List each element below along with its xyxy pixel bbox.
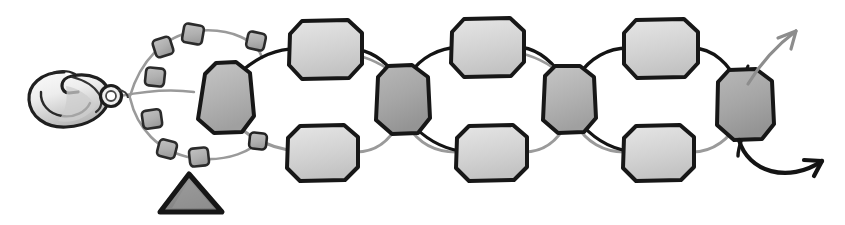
octagon-bead xyxy=(623,125,694,181)
loop-bead xyxy=(152,36,175,59)
upper-bead-row xyxy=(289,18,698,79)
octagon-bead xyxy=(451,18,524,77)
illustration-canvas: Beaded bracelet assembly illustration xyxy=(0,0,845,225)
octagon-bead xyxy=(289,20,362,79)
loop-bead xyxy=(141,109,162,129)
connector-bead xyxy=(543,66,596,133)
lobster-clasp xyxy=(29,71,109,127)
octagon-bead xyxy=(456,125,527,181)
loop-bead xyxy=(145,67,166,87)
connector-bead xyxy=(376,65,430,134)
connector-bead xyxy=(717,69,774,140)
loop-bead xyxy=(182,23,205,45)
octagon-bead xyxy=(624,19,698,78)
beaded-bracelet-illustration xyxy=(0,0,845,225)
loop-bead xyxy=(189,147,210,167)
octagon-bead xyxy=(287,125,358,181)
loop-bead xyxy=(245,31,266,51)
connector-bead xyxy=(198,62,254,133)
loop-bead xyxy=(156,139,178,160)
spacer-bead xyxy=(249,132,268,150)
lower-bead-row xyxy=(287,125,694,181)
